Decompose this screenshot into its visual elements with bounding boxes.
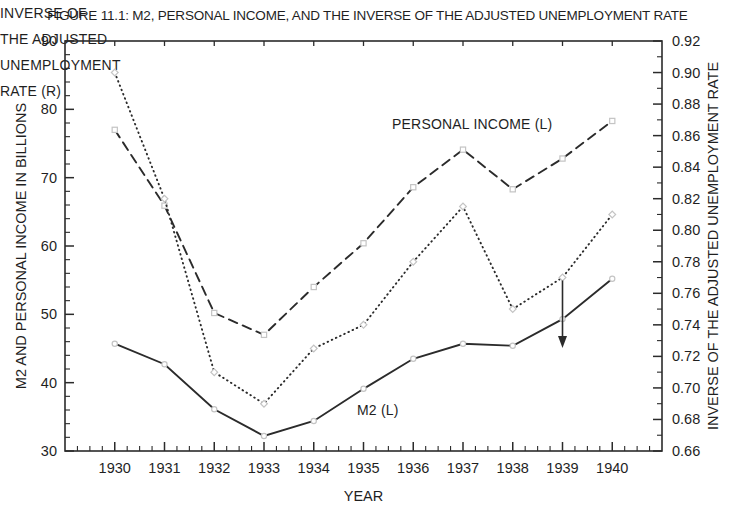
series-1-marker: [261, 433, 266, 438]
right-tick-label: 0.88: [672, 96, 700, 112]
series-0-marker: [311, 284, 316, 289]
left-tick-label: 80: [41, 101, 57, 117]
x-tick-label: 1937: [447, 460, 479, 476]
series-2-marker: [460, 203, 467, 210]
series-1-marker: [162, 362, 167, 367]
series-0-marker: [112, 127, 117, 132]
annotation-arrow-head: [558, 336, 567, 348]
x-tick-label: 1933: [248, 460, 280, 476]
x-axis-title: YEAR: [65, 488, 662, 504]
left-tick-label: 30: [41, 443, 57, 459]
x-tick-label: 1939: [546, 460, 578, 476]
right-tick-label: 0.80: [672, 222, 700, 238]
series-0-marker: [261, 332, 266, 337]
series-1-marker: [212, 407, 217, 412]
right-tick-label: 0.84: [672, 159, 700, 175]
series-0-marker: [411, 185, 416, 190]
right-tick-label: 0.78: [672, 254, 700, 270]
x-tick-label: 1931: [148, 460, 180, 476]
plot-area: 304050607080900.660.680.700.720.740.760.…: [0, 0, 735, 515]
left-tick-label: 60: [41, 238, 57, 254]
series-1-marker: [510, 343, 515, 348]
chart: FIGURE 11.1: M2, PERSONAL INCOME, AND TH…: [0, 0, 735, 515]
series-0-marker: [212, 310, 217, 315]
right-tick-label: 0.76: [672, 285, 700, 301]
x-tick-label: 1932: [198, 460, 230, 476]
m2-series-label: M2 (L): [357, 402, 399, 418]
x-tick-label: 1930: [99, 460, 131, 476]
series-1-marker: [411, 356, 416, 361]
left-tick-label: 90: [41, 33, 57, 49]
series-0-marker: [610, 118, 615, 123]
x-tick-label: 1936: [397, 460, 429, 476]
series-2-marker: [609, 211, 616, 218]
series-1-marker: [460, 341, 465, 346]
x-tick-label: 1940: [596, 460, 628, 476]
right-tick-label: 0.74: [672, 317, 700, 333]
series-2-marker: [509, 306, 516, 313]
series-0-marker: [361, 241, 366, 246]
left-tick-label: 70: [41, 170, 57, 186]
series-0-marker: [460, 147, 465, 152]
right-tick-label: 0.70: [672, 380, 700, 396]
right-tick-label: 0.72: [672, 348, 700, 364]
x-tick-label: 1938: [497, 460, 529, 476]
personal-income-series-label: PERSONAL INCOME (L): [392, 116, 552, 132]
series-2-marker: [111, 69, 118, 76]
right-tick-label: 0.90: [672, 65, 700, 81]
right-tick-label: 0.92: [672, 33, 700, 49]
left-tick-label: 50: [41, 306, 57, 322]
left-tick-label: 40: [41, 375, 57, 391]
series-0-marker: [560, 156, 565, 161]
right-tick-label: 0.86: [672, 128, 700, 144]
series-1-marker: [311, 418, 316, 423]
series-1-marker: [610, 276, 615, 281]
series-2-marker: [211, 369, 218, 376]
series-1-marker: [112, 341, 117, 346]
right-tick-label: 0.82: [672, 191, 700, 207]
x-tick-label: 1935: [347, 460, 379, 476]
series-2-marker: [161, 195, 168, 202]
right-tick-label: 0.68: [672, 411, 700, 427]
series-0-marker: [510, 187, 515, 192]
x-tick-label: 1934: [298, 460, 330, 476]
series-2-marker: [360, 321, 367, 328]
series-line-0: [115, 121, 613, 335]
right-tick-label: 0.66: [672, 443, 700, 459]
series-1-marker: [361, 386, 366, 391]
